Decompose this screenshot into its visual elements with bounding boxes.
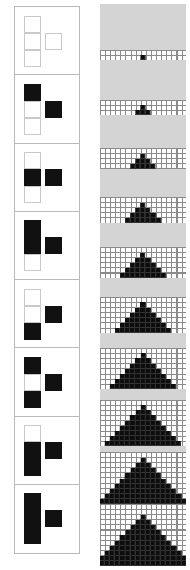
pyramid-panel <box>100 4 186 60</box>
pyramid-panel <box>100 223 186 278</box>
key-cell <box>15 75 79 143</box>
pyramid-panel <box>100 504 186 566</box>
key-square-filled <box>45 101 62 118</box>
pyramid-sequence-column <box>100 4 186 566</box>
pyramid-shape <box>130 154 155 169</box>
key-square-filled <box>24 442 41 459</box>
gray-band <box>100 4 186 50</box>
key-square-filled <box>45 169 62 186</box>
pyramid-shape <box>125 203 161 223</box>
key-square-empty <box>45 33 62 50</box>
gray-band <box>100 60 186 100</box>
key-square-filled <box>24 357 41 374</box>
key-square-empty <box>24 289 41 306</box>
key-square-empty <box>24 254 41 271</box>
key-square-filled <box>24 459 41 476</box>
grid-strip <box>100 348 186 389</box>
key-square-filled <box>45 237 62 254</box>
key-square-empty <box>24 425 41 442</box>
key-square-empty <box>24 33 41 50</box>
gray-band <box>100 278 186 297</box>
key-cell <box>15 280 79 348</box>
key-cell <box>15 7 79 75</box>
pyramid-panel <box>100 169 186 223</box>
key-cell <box>15 144 79 212</box>
key-square-empty <box>24 16 41 33</box>
key-square-empty <box>24 152 41 169</box>
grid-strip <box>100 148 186 169</box>
pyramid-panel <box>100 333 186 389</box>
key-square-filled <box>24 84 41 101</box>
pyramid-cell <box>181 561 186 566</box>
key-cell <box>15 485 79 553</box>
gray-band <box>100 333 186 348</box>
figure-root <box>0 0 190 570</box>
key-square-empty <box>24 186 41 203</box>
key-square-filled <box>24 220 41 237</box>
pyramid-panel <box>100 446 186 504</box>
key-square-filled <box>24 391 41 408</box>
key-square-filled <box>24 527 41 544</box>
key-cell <box>15 348 79 416</box>
key-square-empty <box>24 101 41 118</box>
key-square-filled <box>45 442 62 459</box>
pyramid-shape <box>120 253 166 278</box>
pyramid-row <box>100 561 186 566</box>
key-square-filled <box>45 374 62 391</box>
pyramid-panel <box>100 389 186 446</box>
key-cell <box>15 212 79 280</box>
grid-strip <box>100 452 186 504</box>
pyramid-shape <box>115 302 171 333</box>
key-square-empty <box>24 118 41 135</box>
gray-band <box>100 389 186 400</box>
pyramid-shape <box>135 105 150 115</box>
key-square-empty <box>24 306 41 323</box>
grid-strip <box>100 247 186 278</box>
pyramid-panel <box>100 115 186 169</box>
key-square-filled <box>45 306 62 323</box>
pyramid-shape <box>100 515 186 566</box>
key-square-filled <box>24 323 41 340</box>
gray-band <box>100 115 186 148</box>
gray-band <box>100 223 186 247</box>
key-square-empty <box>24 374 41 391</box>
pyramid-shape <box>110 353 176 389</box>
pyramid-panel <box>100 60 186 115</box>
pyramid-shape <box>105 405 181 446</box>
tetromino-key-column <box>14 6 80 554</box>
key-square-filled <box>24 510 41 527</box>
grid-strip <box>100 504 186 566</box>
grid-strip <box>100 297 186 333</box>
key-square-filled <box>45 510 62 527</box>
key-square-filled <box>24 493 41 510</box>
key-square-filled <box>24 169 41 186</box>
key-square-empty <box>24 50 41 67</box>
grid-strip <box>100 50 186 60</box>
pyramid-shape <box>100 458 186 504</box>
key-cell <box>15 417 79 485</box>
gray-band <box>100 169 186 197</box>
grid-strip <box>100 197 186 223</box>
grid-strip <box>100 400 186 446</box>
key-square-filled <box>24 237 41 254</box>
grid-strip <box>100 100 186 115</box>
pyramid-panel <box>100 278 186 333</box>
